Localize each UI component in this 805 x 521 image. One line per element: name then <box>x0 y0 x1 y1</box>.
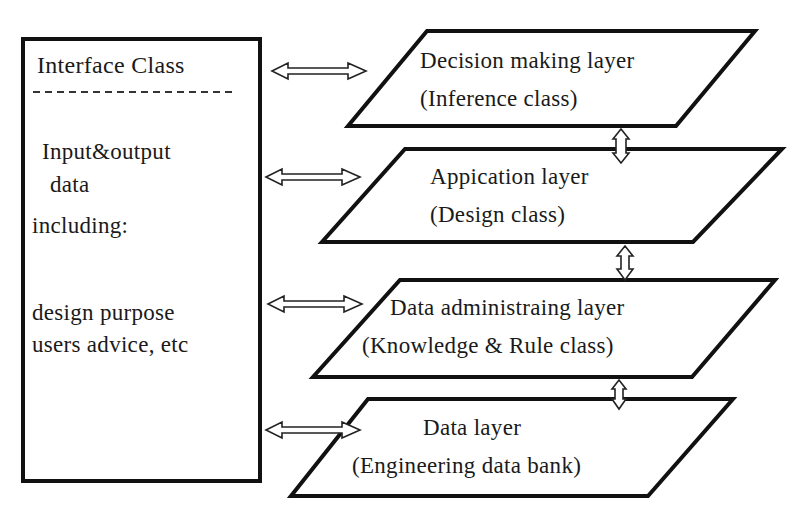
layer-data-title: Data layer <box>423 414 521 442</box>
interface-line-2: data <box>50 171 90 199</box>
layer-data-admin-subtitle: (Knowledge & Rule class) <box>362 332 614 360</box>
layer-application-subtitle: (Design class) <box>430 201 565 229</box>
double-arrow-horizontal-icon <box>266 169 360 185</box>
double-arrow-horizontal-icon <box>266 422 360 438</box>
double-arrow-horizontal-icon <box>272 63 366 79</box>
double-arrow-vertical-icon <box>617 246 633 280</box>
interface-line-1: Input&output <box>42 138 171 166</box>
layer-decision-title: Decision making layer <box>420 47 635 75</box>
interface-class-title: Interface Class <box>37 51 185 79</box>
interface-line-3: including: <box>32 212 128 240</box>
double-arrow-horizontal-icon <box>268 296 362 312</box>
layer-decision-subtitle: (Inference class) <box>420 85 578 113</box>
interface-line-4: design purpose <box>32 299 175 327</box>
layer-data-subtitle: (Engineering data bank) <box>352 452 581 480</box>
interface-box <box>23 39 260 481</box>
interface-line-5: users advice, etc <box>32 331 188 359</box>
layer-data-admin-title: Data administraing layer <box>390 294 625 322</box>
layer-application-title: Appication layer <box>430 163 589 191</box>
